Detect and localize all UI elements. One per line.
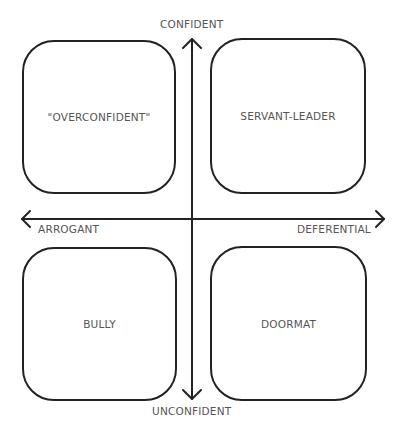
axis-label-confident: CONFIDENT: [160, 18, 223, 30]
axis-label-deferential: DEFERENTIAL: [297, 223, 371, 235]
axes: [0, 0, 401, 436]
axis-label-unconfident: UNCONFIDENT: [152, 405, 231, 417]
axis-label-arrogant: ARROGANT: [38, 223, 99, 235]
